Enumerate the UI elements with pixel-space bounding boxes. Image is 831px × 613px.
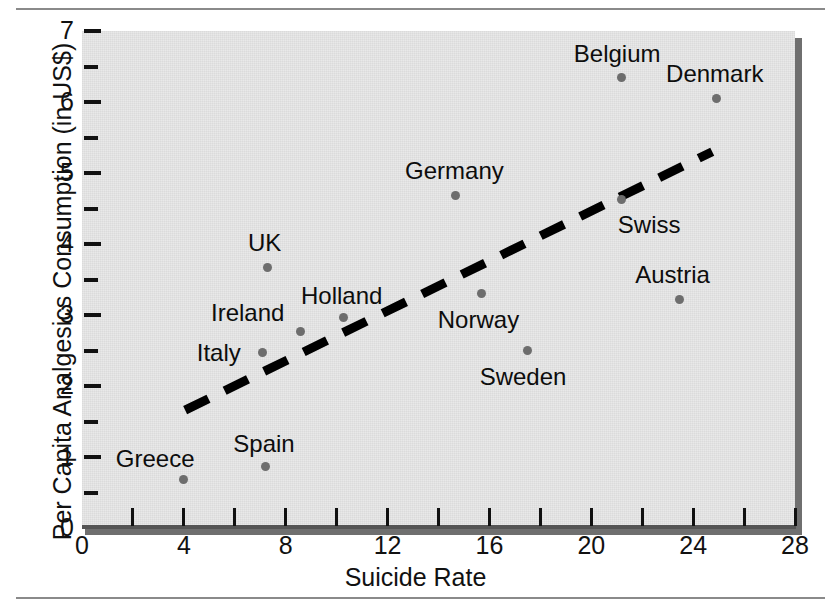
x-tick-label: 8 [256, 533, 316, 558]
x-tick [335, 508, 338, 526]
plot-shadow-right [795, 38, 802, 535]
data-point [261, 462, 270, 471]
top-divider-rule [16, 8, 825, 10]
data-point [675, 295, 684, 304]
x-tick [386, 508, 389, 526]
y-tick [84, 420, 98, 424]
y-tick [84, 100, 101, 104]
data-point-label: Norway [438, 308, 519, 332]
data-point [179, 475, 188, 484]
x-tick-label: 4 [154, 533, 214, 558]
x-tick-label: 24 [663, 533, 723, 558]
x-tick [182, 508, 185, 526]
data-point-label: Belgium [574, 42, 661, 66]
x-tick [284, 508, 287, 526]
x-tick [641, 508, 644, 526]
data-point-label: Holland [301, 284, 382, 308]
data-point-label: Denmark [666, 62, 763, 86]
x-tick [743, 508, 746, 526]
x-tick-label: 12 [358, 533, 418, 558]
data-point-label: Austria [635, 263, 710, 287]
y-tick [84, 384, 101, 388]
data-point-label: UK [248, 231, 281, 255]
y-tick [84, 207, 98, 211]
x-tick [590, 508, 593, 526]
data-point-label: Greece [116, 447, 195, 471]
data-point-label: Ireland [211, 301, 284, 325]
y-tick [84, 491, 98, 495]
y-axis-title: Per Capita Analgesics Consumption (in US… [48, 12, 77, 572]
y-tick [84, 136, 98, 140]
data-point-label: Germany [405, 159, 504, 183]
x-tick [233, 508, 236, 526]
x-tick [692, 508, 695, 526]
y-tick [84, 313, 101, 317]
data-point-label: Italy [197, 341, 241, 365]
y-tick [84, 349, 98, 353]
bottom-divider-rule [16, 597, 825, 599]
scatter-plot-figure: 01234567 0481216202428 GreeceSpainItalyU… [0, 0, 831, 613]
x-axis-title: Suicide Rate [0, 563, 831, 592]
y-tick [84, 455, 101, 459]
data-point [451, 191, 460, 200]
x-tick-label: 28 [765, 533, 825, 558]
x-tick [488, 508, 491, 526]
x-tick [539, 508, 542, 526]
y-tick [84, 278, 98, 282]
x-tick-label: 20 [561, 533, 621, 558]
y-tick [84, 242, 101, 246]
data-point-label: Sweden [480, 365, 567, 389]
y-tick [84, 171, 101, 175]
x-tick-label: 16 [459, 533, 519, 558]
x-tick [131, 508, 134, 526]
data-point-label: Swiss [618, 213, 681, 237]
x-tick [437, 508, 440, 526]
data-point [339, 313, 348, 322]
y-tick [84, 65, 98, 69]
data-point-label: Spain [233, 432, 294, 456]
data-point [712, 94, 721, 103]
y-tick [84, 29, 101, 33]
x-tick [794, 508, 797, 526]
